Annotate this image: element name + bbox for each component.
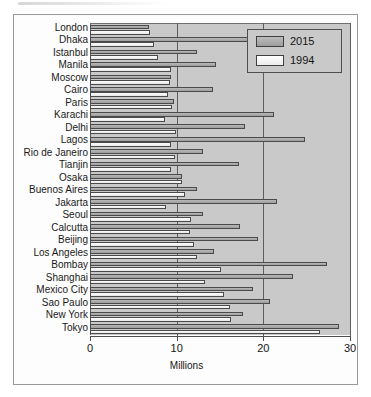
x-axis-line	[90, 336, 351, 337]
bar-2015-manila	[90, 62, 216, 67]
bar-2015-jakarta	[90, 199, 277, 204]
x-tick-label-0: 0	[87, 342, 93, 354]
category-label-dhaka: Dhaka	[0, 34, 88, 46]
legend-label-1994: 1994	[290, 54, 314, 67]
bar-1994-new-york	[90, 317, 231, 322]
x-tick-0	[90, 336, 91, 341]
category-label-mexico-city: Mexico City	[0, 284, 88, 296]
scan-artifact-bottom	[0, 388, 371, 397]
bar-2015-tokyo	[90, 324, 339, 329]
category-label-tianjin: Tianjin	[0, 159, 88, 171]
bar-1994-moscow	[90, 80, 170, 85]
bar-1994-istanbul	[90, 55, 158, 60]
bar-1994-shanghai	[90, 280, 205, 285]
bar-1994-calcutta	[90, 230, 190, 235]
bar-2015-osaka	[90, 174, 182, 179]
bar-2015-delhi	[90, 124, 245, 129]
scan-artifact-top	[0, 0, 371, 14]
bar-row: Tokyo	[14, 323, 359, 337]
legend-label-2015: 2015	[290, 35, 314, 48]
category-label-lagos: Lagos	[0, 134, 88, 146]
bar-2015-shanghai	[90, 274, 293, 279]
bar-2015-new-york	[90, 312, 243, 317]
figure-frame: LondonDhakaIstanbulManilaMoscowCairoPari…	[13, 14, 358, 385]
category-label-los-angeles: Los Angeles	[0, 247, 88, 259]
category-label-calcutta: Calcutta	[0, 222, 88, 234]
category-label-istanbul: Istanbul	[0, 47, 88, 59]
category-label-london: London	[0, 22, 88, 34]
category-label-bombay: Bombay	[0, 259, 88, 271]
bar-1994-rio-de-janeiro	[90, 155, 175, 160]
bar-1994-mexico-city	[90, 292, 224, 297]
bar-1994-manila	[90, 67, 171, 72]
category-label-shanghai: Shanghai	[0, 272, 88, 284]
bar-1994-delhi	[90, 130, 176, 135]
bar-2015-karachi	[90, 112, 274, 117]
bar-2015-istanbul	[90, 50, 197, 55]
bar-2015-moscow	[90, 75, 171, 80]
category-label-seoul: Seoul	[0, 209, 88, 221]
x-axis-title-text: Millions	[170, 360, 203, 371]
x-tick-10	[177, 336, 178, 341]
x-tick-20	[263, 336, 264, 341]
legend-swatch-2015	[256, 36, 284, 47]
bar-1994-seoul	[90, 217, 191, 222]
x-tick-label-20: 20	[257, 342, 269, 354]
bar-2015-london	[90, 25, 149, 30]
bar-2015-cairo	[90, 87, 213, 92]
x-tick-label-10: 10	[171, 342, 183, 354]
bar-1994-cairo	[90, 92, 168, 97]
x-axis-title: Millions	[14, 360, 359, 371]
x-tick-label-30: 30	[344, 342, 356, 354]
bar-1994-sao-paulo	[90, 305, 230, 310]
chart-plot: LondonDhakaIstanbulManilaMoscowCairoPari…	[14, 15, 359, 386]
bar-1994-buenos-aires	[90, 192, 185, 197]
bar-2015-bombay	[90, 262, 327, 267]
bar-1994-dhaka	[90, 42, 154, 47]
bar-2015-seoul	[90, 212, 203, 217]
bar-1994-london	[90, 30, 150, 35]
bar-2015-paris	[90, 99, 174, 104]
category-label-rio-de-janeiro: Rio de Janeiro	[0, 147, 88, 159]
bar-2015-dhaka	[90, 37, 250, 42]
bar-1994-jakarta	[90, 205, 166, 210]
bar-2015-rio-de-janeiro	[90, 149, 203, 154]
chart-legend: 2015 1994	[247, 29, 342, 73]
bar-2015-beijing	[90, 237, 258, 242]
bar-1994-tokyo	[90, 330, 320, 335]
bar-2015-lagos	[90, 137, 305, 142]
category-label-delhi: Delhi	[0, 122, 88, 134]
category-label-osaka: Osaka	[0, 172, 88, 184]
category-label-buenos-aires: Buenos Aires	[0, 184, 88, 196]
category-label-paris: Paris	[0, 97, 88, 109]
x-tick-30	[350, 336, 351, 341]
bar-1994-beijing	[90, 242, 194, 247]
bar-2015-calcutta	[90, 224, 240, 229]
bar-1994-karachi	[90, 117, 165, 122]
category-label-tokyo: Tokyo	[0, 322, 88, 334]
category-label-karachi: Karachi	[0, 109, 88, 121]
category-label-moscow: Moscow	[0, 72, 88, 84]
bar-1994-lagos	[90, 142, 171, 147]
bar-1994-tianjin	[90, 167, 171, 172]
bar-2015-los-angeles	[90, 249, 214, 254]
category-label-cairo: Cairo	[0, 84, 88, 96]
bar-2015-tianjin	[90, 162, 239, 167]
bar-2015-mexico-city	[90, 287, 253, 292]
category-label-jakarta: Jakarta	[0, 197, 88, 209]
bar-1994-los-angeles	[90, 255, 197, 260]
bar-1994-bombay	[90, 267, 221, 272]
bar-1994-paris	[90, 105, 172, 110]
bar-2015-buenos-aires	[90, 187, 197, 192]
legend-swatch-1994	[256, 55, 284, 66]
bar-2015-sao-paulo	[90, 299, 270, 304]
category-label-sao-paulo: Sao Paulo	[0, 297, 88, 309]
category-label-manila: Manila	[0, 59, 88, 71]
category-label-beijing: Beijing	[0, 234, 88, 246]
bar-1994-osaka	[90, 180, 182, 185]
category-label-new-york: New York	[0, 309, 88, 321]
